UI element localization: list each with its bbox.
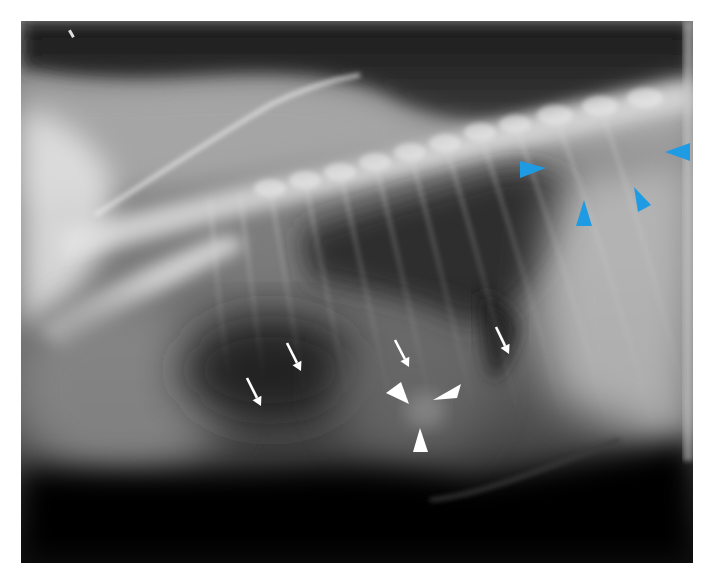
radiograph-figure [0, 0, 718, 579]
radiograph-canvas [0, 0, 718, 579]
xray-image [10, 21, 693, 563]
